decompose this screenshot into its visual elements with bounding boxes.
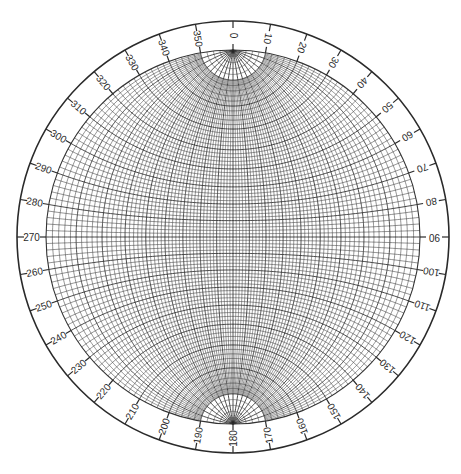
azimuth-tick xyxy=(199,421,200,427)
azimuth-label: 170 xyxy=(261,426,275,445)
azimuth-tick xyxy=(43,269,49,270)
azimuth-label: 30 xyxy=(326,55,341,71)
azimuth-tick xyxy=(297,413,299,419)
azimuth-label: 160 xyxy=(294,416,310,436)
azimuth-label: 60 xyxy=(400,129,416,144)
azimuth-label: 260 xyxy=(25,265,44,279)
azimuth-tick xyxy=(199,47,200,53)
azimuth-label: 310 xyxy=(69,98,89,117)
azimuth-label: 300 xyxy=(49,127,69,145)
azimuth-tick xyxy=(66,141,71,144)
azimuth-tick xyxy=(327,399,330,404)
azimuth-label: 110 xyxy=(413,298,432,314)
azimuth-tick xyxy=(409,171,415,173)
azimuth-tick xyxy=(367,72,371,77)
azimuth-tick xyxy=(109,89,113,94)
azimuth-label: 340 xyxy=(156,38,172,58)
azimuth-tick xyxy=(66,331,71,334)
azimuth-label: 210 xyxy=(123,401,141,421)
azimuth-tick xyxy=(167,56,169,62)
azimuth-tick xyxy=(429,163,436,165)
azimuth-label: 220 xyxy=(94,381,113,401)
azimuth-tick xyxy=(137,70,140,75)
azimuth-label: 250 xyxy=(34,298,54,314)
azimuth-label: 240 xyxy=(49,329,69,347)
azimuth-tick xyxy=(43,203,49,204)
azimuth-tick xyxy=(85,357,90,361)
wulff-net-grid xyxy=(46,50,420,424)
azimuth-label: 200 xyxy=(156,416,172,436)
azimuth-tick xyxy=(265,47,266,53)
azimuth-label: 90 xyxy=(429,232,441,243)
azimuth-tick xyxy=(393,98,398,102)
stereonet-diagram: 0102030405060708090100110120130140150160… xyxy=(0,0,461,474)
azimuth-tick xyxy=(439,199,446,200)
azimuth-tick xyxy=(109,380,113,385)
azimuth-tick xyxy=(327,70,330,75)
azimuth-label: 140 xyxy=(353,381,372,401)
azimuth-label: 290 xyxy=(34,160,54,176)
azimuth-tick xyxy=(52,171,58,173)
azimuth-label: 80 xyxy=(425,196,438,209)
azimuth-tick xyxy=(417,269,423,270)
azimuth-tick xyxy=(409,301,415,303)
azimuth-tick xyxy=(304,34,306,41)
azimuth-tick xyxy=(395,331,400,334)
azimuth-label: 280 xyxy=(25,195,44,209)
azimuth-tick xyxy=(376,357,381,361)
azimuth-label: 10 xyxy=(262,32,275,45)
azimuth-label: 50 xyxy=(379,100,395,116)
azimuth-tick xyxy=(395,141,400,144)
azimuth-tick xyxy=(167,413,169,419)
azimuth-label: 230 xyxy=(69,357,89,376)
azimuth-label: 180 xyxy=(228,430,239,447)
azimuth-tick xyxy=(417,203,423,204)
azimuth-tick xyxy=(269,24,270,31)
azimuth-tick xyxy=(376,113,381,117)
azimuth-tick xyxy=(414,129,420,133)
azimuth-tick xyxy=(353,380,357,385)
azimuth-label: 270 xyxy=(23,232,40,243)
azimuth-label: 150 xyxy=(325,401,343,421)
azimuth-label: 20 xyxy=(295,41,309,56)
azimuth-label: 70 xyxy=(415,161,430,175)
azimuth-tick xyxy=(85,113,90,117)
azimuth-tick xyxy=(265,421,266,427)
azimuth-label: 120 xyxy=(397,329,417,347)
azimuth-label: 350 xyxy=(191,29,205,48)
azimuth-tick xyxy=(137,399,140,404)
azimuth-label: 330 xyxy=(123,53,141,73)
azimuth-tick xyxy=(297,56,299,62)
azimuth-label: 190 xyxy=(191,426,205,445)
azimuth-tick xyxy=(338,50,342,56)
azimuth-label: 0 xyxy=(228,33,239,39)
azimuth-tick xyxy=(353,89,357,94)
azimuth-tick xyxy=(52,301,58,303)
azimuth-label: 320 xyxy=(94,73,113,93)
azimuth-label: 130 xyxy=(377,357,397,376)
azimuth-label: 100 xyxy=(422,265,441,279)
azimuth-label: 40 xyxy=(354,75,370,91)
